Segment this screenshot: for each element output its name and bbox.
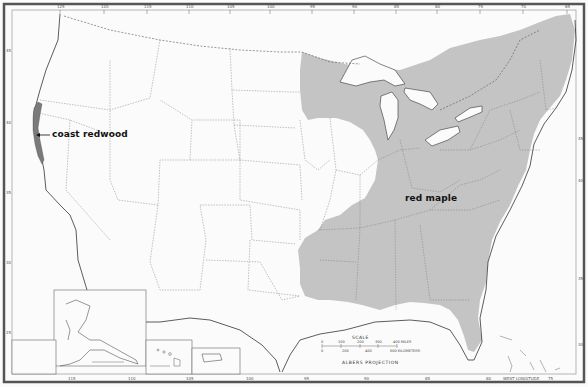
lon-bottom-95: 95 (304, 376, 309, 381)
lon-label-125: 125 (57, 4, 65, 9)
west-longitude-caption: WEST LONGITUDE (503, 376, 539, 381)
lat-right-35: 35 (578, 276, 583, 281)
lon-label-120: 120 (101, 4, 109, 9)
lon-bottom-105: 105 (186, 376, 194, 381)
scale-km-0: 0 (321, 349, 323, 353)
coast-redwood-range (33, 102, 44, 164)
coast-redwood-label: coast redwood (52, 129, 128, 139)
lon-bottom-75: 75 (548, 376, 553, 381)
lat-left-40: 40 (6, 120, 11, 125)
lon-label-75: 75 (478, 4, 483, 9)
lon-bottom-110: 110 (128, 376, 136, 381)
lon-label-65: 65 (565, 4, 570, 9)
lon-label-85: 85 (394, 4, 399, 9)
scale-bar (322, 344, 397, 348)
lat-right-40: 40 (578, 178, 583, 183)
red-maple-label: red maple (405, 193, 457, 203)
lat-left-35: 35 (6, 190, 11, 195)
lat-left-30: 30 (6, 260, 11, 265)
lon-bottom-115: 115 (68, 376, 76, 381)
lon-label-70: 70 (521, 4, 526, 9)
puerto-rico-inset (192, 348, 240, 374)
lon-bottom-90: 90 (364, 376, 369, 381)
scale-mi-200: 200 (357, 340, 364, 344)
top-longitude-ticks (60, 10, 567, 14)
scale-km-400: 400 (365, 349, 372, 353)
scale-mi-100: 100 (338, 340, 345, 344)
scale-mi-0: 0 (321, 340, 323, 344)
lat-right-45: 45 (578, 136, 583, 141)
lon-label-110: 110 (186, 4, 194, 9)
lon-bottom-80: 80 (486, 376, 491, 381)
hawaii-inset (146, 340, 192, 374)
lon-label-100: 100 (267, 4, 275, 9)
scale-mi-300: 300 (375, 340, 382, 344)
lat-left-25: 25 (6, 330, 11, 335)
lon-label-90: 90 (352, 4, 357, 9)
scale-km-600: 600 KILOMETERS (390, 349, 420, 353)
projection-label: ALBERS PROJECTION (342, 360, 399, 365)
lon-label-95: 95 (310, 4, 315, 9)
caribbean-islands (500, 336, 560, 372)
lon-bottom-85: 85 (425, 376, 430, 381)
scale-mi-400: 400 MILES (393, 340, 411, 344)
range-map: coast redwood red maple 125 120 115 110 … (0, 0, 588, 387)
alaska-inset (12, 290, 146, 374)
lake-superior (340, 56, 405, 86)
lon-label-105: 105 (227, 4, 235, 9)
map-canvas (0, 0, 588, 387)
lat-left-45: 45 (6, 48, 11, 53)
red-maple-range (298, 14, 575, 352)
lon-label-115: 115 (144, 4, 152, 9)
lat-right-30: 30 (578, 342, 583, 347)
lon-label-80: 80 (435, 4, 440, 9)
scale-km-200: 200 (342, 349, 349, 353)
lon-bottom-100: 100 (246, 376, 254, 381)
